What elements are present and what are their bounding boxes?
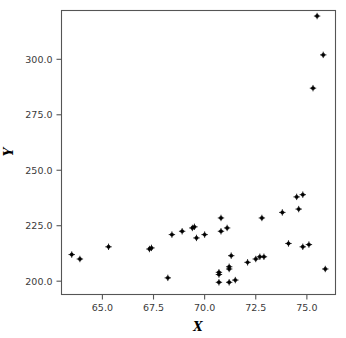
y-tick-label: 250.0 <box>25 165 52 176</box>
plot-canvas: 65.067.570.072.575.0 200.0225.0250.0275.… <box>0 0 346 338</box>
y-axis-title: Y <box>2 146 16 156</box>
x-tick-label: 65.0 <box>92 302 113 313</box>
x-tick-label: 70.0 <box>194 302 215 313</box>
x-tick-label: 72.5 <box>245 302 266 313</box>
x-tick-label: 67.5 <box>143 302 164 313</box>
x-tick-label: 75.0 <box>296 302 317 313</box>
y-tick-label: 225.0 <box>25 220 52 231</box>
x-axis-title: X <box>192 320 203 334</box>
scatter-plot-figure: 65.067.570.072.575.0 200.0225.0250.0275.… <box>0 0 346 338</box>
y-tick-label: 275.0 <box>25 109 52 120</box>
y-tick-label: 200.0 <box>25 276 52 287</box>
y-tick-label: 300.0 <box>25 54 52 65</box>
